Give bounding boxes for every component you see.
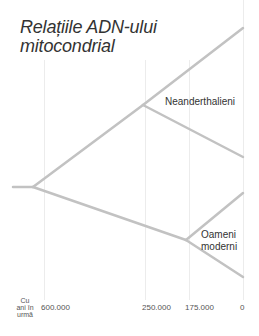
phylogenetic-tree bbox=[0, 0, 259, 336]
tick-250000: 250.000 bbox=[142, 303, 171, 312]
modern-label-line-1: Oameni bbox=[201, 229, 237, 241]
unit-line-1: Cu bbox=[14, 297, 36, 304]
tick-0: 0 bbox=[240, 303, 244, 312]
neanderthal-label: Neanderthalieni bbox=[165, 96, 235, 108]
tick-175000: 175.000 bbox=[185, 303, 214, 312]
neanderthal-upper-leaf bbox=[143, 28, 243, 105]
tick-600000: 600.000 bbox=[41, 303, 70, 312]
time-gridlines bbox=[45, 0, 244, 300]
unit-line-3: urmă bbox=[14, 311, 36, 318]
branch-to-modern-node bbox=[33, 187, 186, 240]
modern-label-line-2: moderni bbox=[201, 241, 237, 253]
branch-to-neanderthal-node bbox=[33, 105, 143, 187]
modern-human-label: Oameni moderni bbox=[201, 229, 237, 253]
unit-line-2: ani în bbox=[14, 304, 36, 311]
neanderthal-lower-leaf bbox=[143, 105, 243, 157]
axis-unit-label: Cu ani în urmă bbox=[14, 297, 36, 318]
